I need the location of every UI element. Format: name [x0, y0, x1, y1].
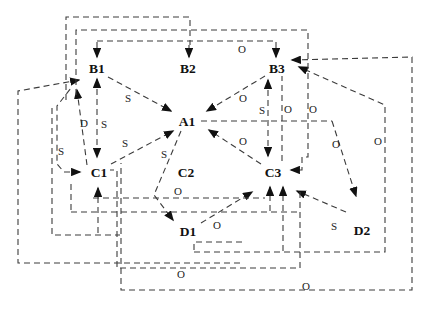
connection-label-box-bracket-c3: O	[309, 103, 317, 115]
connection-label-a1-d1: S	[161, 148, 167, 160]
connection-label-b1-c1-vertical: S	[101, 118, 107, 130]
node-C1: C1	[91, 165, 108, 180]
connection-label-top-line: O	[238, 43, 246, 55]
diagram: SDSSOOSSOSOSOOOOOOOB1B2B3A1C1C2C3D1D2	[0, 0, 434, 315]
node-B3: B3	[269, 61, 285, 76]
connection-label-c1-b1-left-route: S	[58, 145, 64, 157]
connection-label-c1-a1: S	[122, 137, 128, 149]
connection-label-b3-c3-line2: O	[284, 103, 292, 115]
node-C3: C3	[265, 165, 282, 180]
node-A1: A1	[179, 114, 196, 129]
connection-label-d1-c3: O	[213, 219, 221, 231]
node-B1: B1	[89, 61, 105, 76]
node-B2: B2	[180, 61, 196, 76]
connection-label-b3-c3-vertical: S	[259, 104, 265, 116]
node-D1: D1	[180, 224, 197, 239]
node-D2: D2	[354, 223, 371, 238]
node-C2: C2	[178, 165, 195, 180]
connection-label-loop-right-b3: O	[374, 135, 382, 147]
figure-background	[0, 0, 434, 315]
connection-label-d2-c3: S	[331, 220, 337, 232]
connection-label-b1-a1: S	[125, 92, 131, 104]
diagram-canvas: SDSSOOSSOSOSOOOOOOOB1B2B3A1C1C2C3D1D2	[0, 0, 434, 315]
connection-label-box-c2-d1: O	[177, 268, 185, 280]
connection-label-a1line-d2: O	[332, 138, 340, 150]
connection-label-line-under-c2: O	[174, 185, 182, 197]
connection-label-b3-a1: O	[239, 92, 247, 104]
connection-label-c3-a1: O	[239, 135, 247, 147]
connection-label-outer-right-b3: O	[302, 280, 310, 292]
connection-label-c1-b1-diagonal: D	[80, 117, 88, 129]
